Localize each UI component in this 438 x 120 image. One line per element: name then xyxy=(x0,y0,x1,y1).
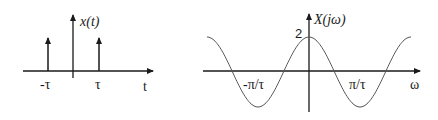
tick-neg-tau: -τ xyxy=(40,78,50,92)
left-y-label: x(t) xyxy=(80,15,99,29)
right-y-label: X(jω) xyxy=(314,13,346,27)
peak-label: 2 xyxy=(295,27,302,40)
right-plot xyxy=(203,14,420,112)
tick-neg-pi-over-tau: -π/τ xyxy=(243,78,264,92)
tick-pos-tau: τ xyxy=(95,78,101,92)
left-x-label: t xyxy=(143,80,147,94)
right-x-label: ω xyxy=(410,78,419,92)
diagram-canvas xyxy=(0,0,438,120)
tick-pi-over-tau: π/τ xyxy=(349,78,366,92)
